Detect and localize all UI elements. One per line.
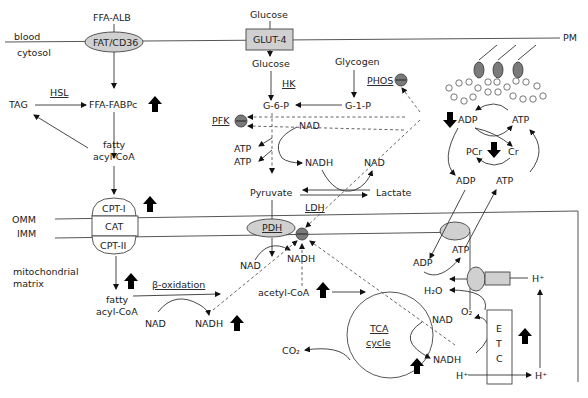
nadh-pdh-label: NADH <box>287 253 315 264</box>
myosin-heads <box>474 45 536 78</box>
phos-enzyme: PHOS <box>367 75 393 86</box>
atp-synthase-f0 <box>485 272 510 285</box>
atp-mid-label: ATP <box>496 175 514 186</box>
nadh-beta-label: NADH <box>195 318 223 329</box>
tag-label: TAG <box>8 99 28 110</box>
adp-mit-label: ADP <box>413 257 433 268</box>
region-omm: OMM <box>12 214 36 225</box>
cat-label: CAT <box>105 221 123 232</box>
glucose-int-label: Glucose <box>252 58 290 69</box>
h-plus-3: H⁺ <box>535 370 547 381</box>
atp-mit-label: ATP <box>452 244 470 255</box>
fatty-acyl-coa-cyt-1: fatty <box>103 139 126 150</box>
fat-cd36-label: FAT/CD36 <box>93 37 138 48</box>
g6p-label: G-6-P <box>263 100 289 111</box>
etc-t: T <box>495 338 502 349</box>
o2-label: O₂ <box>461 306 472 317</box>
g1p-label: G-1-P <box>345 100 371 111</box>
adp-top-label: ADP <box>458 114 478 125</box>
bold-down-arrow-icon <box>487 142 501 158</box>
atp-gly-2: ATP <box>234 156 252 167</box>
atp-gly-1: ATP <box>234 143 252 154</box>
beta-oxidation-label: β-oxidation <box>152 279 205 290</box>
nad-pdh-label: NAD <box>240 260 261 271</box>
atp-top-label: ATP <box>512 114 530 125</box>
glut4-label: GLUT-4 <box>253 34 287 45</box>
ffa-alb-label: FFA-ALB <box>93 12 131 23</box>
adp-mid-label: ADP <box>456 175 476 186</box>
glycogen-label: Glycogen <box>335 56 380 67</box>
fatty-acyl-coa-mit-2: acyl-CoA <box>96 306 138 317</box>
tca-label-1: TCA <box>369 323 389 334</box>
nadh-etc-label: NADH <box>433 354 461 365</box>
nad-etc-label: NAD <box>432 314 453 325</box>
hsl-enzyme: HSL <box>50 87 69 98</box>
bold-up-arrow-icon <box>230 315 244 331</box>
region-matrix-1: mitochondrial <box>13 266 79 277</box>
bold-up-arrow-icon <box>143 196 157 212</box>
region-cytosol: cytosol <box>17 47 51 58</box>
h2o-label: H₂O <box>424 285 442 296</box>
region-pm: PM <box>563 32 577 43</box>
cpt1-label: CPT-I <box>102 203 126 214</box>
cr-label: Cr <box>508 146 519 157</box>
bold-up-arrow-icon <box>518 328 532 344</box>
bold-up-arrow-icon <box>316 282 330 298</box>
tca-label-2: cycle <box>366 337 391 348</box>
h-plus-2: H⁺ <box>456 370 468 381</box>
adenine-nucleotide-translocase <box>440 222 470 240</box>
pdh-label: PDH <box>262 222 282 233</box>
calcium-vesicles <box>446 78 546 104</box>
bold-down-arrow-icon <box>443 112 457 128</box>
acetyl-coa-label: acetyl-CoA <box>258 287 310 298</box>
glucose-ext-label: Glucose <box>250 9 288 20</box>
pcr-label: PCr <box>466 146 482 157</box>
co2-label: CO₂ <box>282 345 300 356</box>
fatty-acyl-coa-mit-1: fatty <box>106 294 129 305</box>
h-plus-1: H⁺ <box>532 273 544 284</box>
pyruvate-label: Pyruvate <box>250 187 292 198</box>
bold-up-arrow-icon <box>148 96 162 112</box>
ldh-enzyme: LDH <box>305 202 325 213</box>
nad-gly-label: NAD <box>299 120 320 131</box>
atp-synthase-f1 <box>467 267 485 291</box>
hk-enzyme: HK <box>282 78 296 89</box>
region-imm: IMM <box>17 228 36 239</box>
ffa-fabpc-label: FFA-FABPc <box>89 99 137 110</box>
cpt2-label: CPT-II <box>100 240 126 251</box>
nadh-gly-label: NADH <box>305 157 333 168</box>
fatty-acyl-coa-cyt-2: acyl-CoA <box>93 151 135 162</box>
metabolic-pathway-diagram: blood cytosol PM FFA-ALB FAT/CD36 TAG HS… <box>0 0 588 398</box>
nad-beta-label: NAD <box>145 318 166 329</box>
pfk-enzyme: PFK <box>212 115 230 126</box>
etc-c: C <box>496 353 503 364</box>
region-matrix-2: matrix <box>13 278 44 289</box>
bold-up-arrow-icon <box>124 273 138 289</box>
lactate-label: Lactate <box>376 187 412 198</box>
etc-e: E <box>496 323 502 334</box>
region-blood: blood <box>14 31 40 42</box>
